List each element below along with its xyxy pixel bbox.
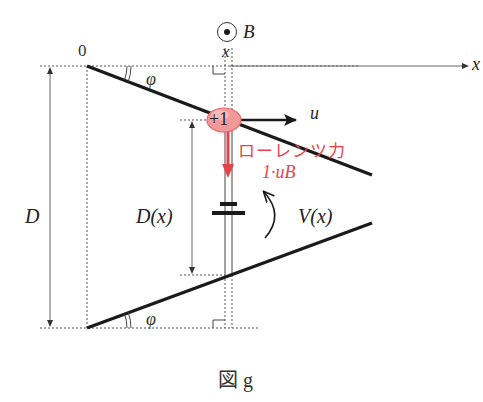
lorentz-force-value: 1·uB [262, 163, 296, 181]
right-angle-mark-top [213, 66, 225, 74]
x-axis-label: x [472, 55, 480, 73]
total-gap-arrow [47, 67, 53, 327]
lorentz-force-label: ローレンツ力 [238, 143, 346, 160]
x-position-label: x [222, 43, 230, 60]
figure-caption: 図 g [218, 370, 253, 390]
capacitor-icon [212, 202, 245, 215]
magnetic-field-out-icon [218, 23, 237, 42]
voltage-label: V(x) [298, 206, 332, 226]
charge-label: +1 [209, 110, 228, 128]
local-gap-arrow [180, 120, 225, 275]
right-angle-mark-bottom [213, 320, 225, 328]
bottom-plate [87, 223, 372, 328]
diagram-canvas [0, 0, 483, 402]
velocity-label: u [310, 104, 319, 122]
figure-g: 0 x x B φ φ D D(x) V(x) +1 u ローレンツ力 1·uB… [0, 0, 483, 402]
x-position-guides [225, 48, 232, 328]
total-gap-label: D [25, 206, 39, 226]
x-axis [40, 63, 469, 69]
local-gap-label: D(x) [136, 206, 173, 226]
origin-label: 0 [78, 42, 87, 59]
voltage-curved-arrow [264, 192, 275, 238]
angle-bottom-label: φ [146, 310, 156, 328]
magnetic-field-label: B [243, 22, 255, 41]
angle-top-label: φ [146, 70, 156, 88]
